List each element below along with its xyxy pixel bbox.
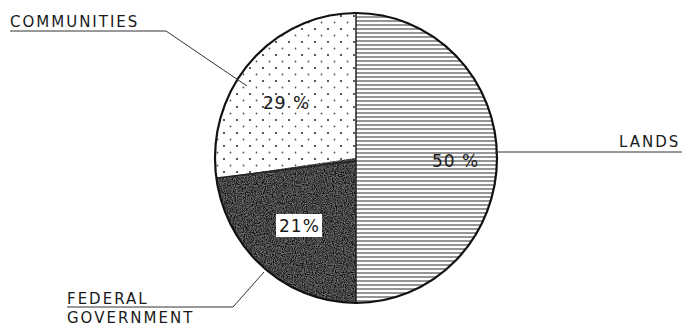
label-communities: COMMUNITIES: [10, 13, 139, 31]
label-federal-line1: FEDERAL: [67, 290, 149, 308]
label-federal-line2: GOVERNMENT: [67, 309, 194, 327]
value-communities: 29 %: [263, 93, 310, 113]
value-lands: 50 %: [432, 151, 479, 171]
leader-communities: [10, 31, 247, 86]
pie-chart: 29 % 50 % 21% COMMUNITIES LANDS FEDERAL …: [0, 0, 691, 329]
value-federal: 21%: [279, 216, 320, 236]
label-lands: LANDS: [619, 133, 680, 151]
